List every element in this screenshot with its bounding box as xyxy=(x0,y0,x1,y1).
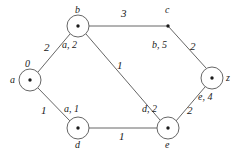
node-label-c: b, 5 xyxy=(152,40,167,50)
edge-weight-c-z: 2 xyxy=(190,41,196,52)
node-name-c: c xyxy=(165,5,169,15)
node-b-dot xyxy=(76,24,79,27)
edge-weight-a-b: 2 xyxy=(44,42,50,53)
node-d-dot xyxy=(76,126,79,129)
node-name-d: d xyxy=(75,140,80,150)
node-name-e: e xyxy=(165,140,169,150)
node-label-e: d, 2 xyxy=(142,104,157,114)
node-name-b: b xyxy=(75,5,80,15)
node-c-dot xyxy=(166,24,169,27)
node-name-a: a xyxy=(10,75,15,85)
node-label-z: e, 4 xyxy=(198,92,212,102)
edge-weight-e-z: 2 xyxy=(187,105,193,116)
edge-weight-a-d: 1 xyxy=(41,105,47,116)
node-z-dot xyxy=(210,76,213,79)
node-label-d: a, 1 xyxy=(64,104,79,114)
node-label-b: a, 2 xyxy=(62,40,77,50)
edge-weight-b-c: 3 xyxy=(121,8,127,19)
edge-c-z xyxy=(168,26,206,68)
node-a-dot xyxy=(28,78,31,81)
edge-weight-b-e: 1 xyxy=(117,60,123,71)
node-e-dot xyxy=(166,126,169,129)
node-label-a: 0 xyxy=(25,59,30,69)
graph-figure: a b c d e z 0 a, 2 b, 5 a, 1 d, 2 e, 4 2… xyxy=(0,0,242,155)
edge-weight-d-e: 1 xyxy=(119,131,125,142)
node-name-z: z xyxy=(226,73,230,83)
node-group xyxy=(19,15,223,139)
